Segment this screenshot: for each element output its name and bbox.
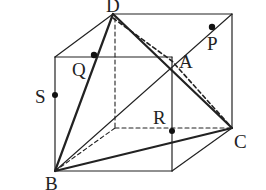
cube-diagram: D A P Q S R C B xyxy=(0,0,266,190)
point-s-dot xyxy=(52,92,58,98)
point-q-dot xyxy=(91,52,97,58)
label-d: D xyxy=(106,0,120,16)
edge-db xyxy=(55,14,113,171)
label-p: P xyxy=(207,33,218,54)
label-a: A xyxy=(179,51,193,72)
edge-bc xyxy=(55,128,232,171)
point-p-dot xyxy=(209,24,215,30)
label-c: C xyxy=(234,131,247,152)
point-r-dot xyxy=(169,128,175,134)
label-b: B xyxy=(45,173,58,190)
label-r: R xyxy=(153,107,166,128)
label-q: Q xyxy=(72,59,86,80)
label-s: S xyxy=(35,86,46,107)
